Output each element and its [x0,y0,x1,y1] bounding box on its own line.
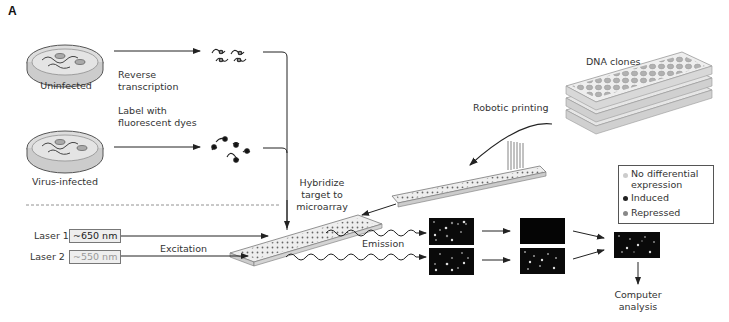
label-virus-infected: Virus-infected [22,176,108,188]
scan-image-laser-1 [429,218,474,245]
composite-image [614,232,660,258]
legend-item-repressed: Repressed [631,207,680,218]
merge-line [263,52,287,230]
laser-2-label: Laser 2 [30,251,65,263]
legend-item-induced: Induced [631,192,669,203]
arrow-slide-to-hybridize [362,204,396,215]
processed-image-1 [520,218,565,244]
label-computer-analysis: Computer analysis [610,289,666,313]
label-uninfected: Uninfected [30,80,102,92]
laser-1-wavelength: ~650 nm [69,229,121,243]
label-dna-clones: DNA clones [586,56,640,68]
legend-dot-repressed-icon [623,211,628,216]
legend-item-no-differential: No differential expression [631,168,698,190]
label-robotic-printing: Robotic printing [473,102,548,114]
hybridization-slide-icon [230,215,382,266]
label-fluorescent-dyes: Label with fluorescent dyes [118,105,197,129]
cdna-infected-icon [212,137,250,162]
label-excitation: Excitation [160,243,207,255]
scan-image-laser-2 [429,248,474,275]
printing-slide-icon [392,141,546,207]
legend: No differential expression Induced Repre… [618,165,714,224]
label-reverse-transcription: Reverse transcription [118,69,178,93]
emission-wave-2 [286,254,416,260]
legend-dot-induced-icon [623,196,628,201]
petri-dish-virus-infected-icon [27,131,103,173]
label-emission: Emission [362,238,404,250]
label-hybridize: Hybridize target to microarray [292,177,352,213]
cdna-uninfected-icon [212,49,246,61]
laser-2-wavelength: ~550 nm [69,250,121,264]
processed-image-2 [520,248,565,274]
legend-dot-no-diff-icon [623,173,628,178]
microarray-workflow-diagram [0,0,729,322]
laser-1-label: Laser 1 [34,230,69,242]
